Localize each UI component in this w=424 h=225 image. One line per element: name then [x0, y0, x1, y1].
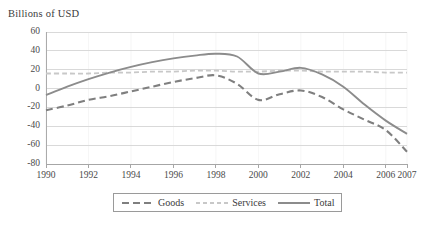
x-tick-marks: [46, 32, 407, 168]
chart-container: Billions of USD 6040200-20-40-60-80 1990…: [0, 0, 424, 225]
x-tick-label: 2004: [326, 170, 360, 180]
x-tick-label: 2007: [390, 170, 424, 180]
x-tick-label: 2000: [241, 170, 275, 180]
series-line-total: [46, 54, 407, 134]
x-tick-label: 1990: [29, 170, 63, 180]
legend-label: Total: [314, 197, 334, 208]
legend-label: Services: [232, 197, 266, 208]
y-tick-label: 0: [14, 83, 40, 93]
chart-legend: GoodsServicesTotal: [113, 193, 342, 212]
legend-label: Goods: [158, 197, 184, 208]
series-line-services: [46, 71, 407, 74]
y-tick-label: 20: [14, 64, 40, 74]
legend-item-total[interactable]: Total: [277, 197, 334, 208]
legend-item-goods[interactable]: Goods: [121, 197, 184, 208]
data-series-group: [46, 54, 407, 152]
solid-gray-swatch: [277, 199, 311, 207]
x-tick-label: 1994: [114, 170, 148, 180]
y-tick-label: 60: [14, 26, 40, 36]
line-chart-plot: [0, 0, 424, 225]
x-tick-label: 2002: [284, 170, 318, 180]
x-tick-label: 1998: [199, 170, 233, 180]
y-tick-label: -40: [14, 120, 40, 130]
y-tick-label: -80: [14, 158, 40, 168]
x-tick-label: 1996: [156, 170, 190, 180]
y-tick-label: 40: [14, 45, 40, 55]
y-tick-label: -20: [14, 101, 40, 111]
x-tick-label: 1992: [71, 170, 105, 180]
dashed-dark-swatch: [121, 199, 155, 207]
dashed-light-swatch: [195, 199, 229, 207]
legend-item-services[interactable]: Services: [195, 197, 266, 208]
series-line-goods: [46, 75, 407, 152]
y-tick-label: -60: [14, 139, 40, 149]
